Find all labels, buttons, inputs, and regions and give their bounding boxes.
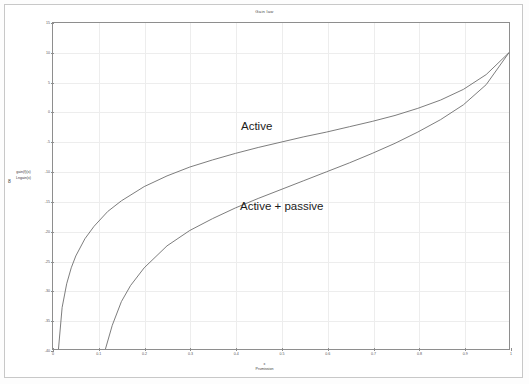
x-axis-tick-label: 0.5	[280, 352, 285, 356]
annotation-active-passive: Active + passive	[240, 200, 323, 212]
x-axis-tick	[419, 348, 420, 351]
y-axis-tick-label: -5	[47, 140, 50, 144]
x-axis-tick	[236, 348, 237, 351]
y-axis-tick	[51, 83, 54, 84]
y-axis-tick-label: -20	[45, 230, 50, 234]
y-axis-tick	[51, 23, 54, 24]
x-axis-title-sub: Prumission	[0, 367, 529, 372]
y-axis-tick	[51, 112, 54, 113]
y-axis-tick-label: -40	[45, 349, 50, 353]
x-axis-tick-label: 0.1	[96, 352, 101, 356]
x-axis-title: x Prumission	[0, 362, 529, 373]
y-axis-tick	[51, 351, 54, 352]
x-axis-tick-label: 0.3	[188, 352, 193, 356]
y-axis-tick	[51, 321, 54, 322]
y-axis-tick	[51, 172, 54, 173]
y-axis-tick-label: -10	[45, 170, 50, 174]
x-axis-tick-label: 0.9	[463, 352, 468, 356]
x-axis-tick	[282, 348, 283, 351]
y-axis-tick-label: 10	[46, 51, 50, 55]
x-axis-tick-label: 0.2	[142, 352, 147, 356]
y-axis-tick	[51, 291, 54, 292]
y-axis-tick-label: 0	[48, 110, 50, 114]
y-axis-tick	[51, 53, 54, 54]
y-axis-tick-label: -25	[45, 260, 50, 264]
chart-screenshot: Gain law 00.10.20.30.40.50.60.70.80.9115…	[0, 0, 529, 384]
x-axis-tick	[328, 348, 329, 351]
y-axis-tick-label: 15	[46, 21, 50, 25]
y-axis-tick	[51, 202, 54, 203]
y-axis-tick-label: -35	[45, 319, 50, 323]
x-axis-tick-label: 0.4	[234, 352, 239, 356]
x-axis-tick-label: 0.8	[417, 352, 422, 356]
y-axis-tick	[51, 262, 54, 263]
y-axis-bracket: 8	[8, 178, 11, 184]
x-axis-tick-label: 1	[510, 352, 512, 356]
y-axis-tick-label: 5	[48, 81, 50, 85]
annotation-active: Active	[241, 120, 272, 132]
x-axis-tick	[511, 348, 512, 351]
y-axis-tick-label: -30	[45, 289, 50, 293]
x-axis-tick	[190, 348, 191, 351]
plot-area: 00.10.20.30.40.50.60.70.80.91151050-5-10…	[52, 22, 510, 350]
x-axis-tick-label: 0	[52, 352, 54, 356]
y-axis-tick-label: -15	[45, 200, 50, 204]
x-axis-tick-label: 0.7	[371, 352, 376, 356]
x-axis-tick	[374, 348, 375, 351]
y-axis-title-line1: gain(f)(x)	[16, 170, 31, 176]
y-axis-title: gain(f)(x) Lngain(x)	[16, 170, 31, 181]
y-axis-title-line2: Lngain(x)	[16, 176, 31, 182]
y-axis-tick	[51, 142, 54, 143]
chart-title: Gain law	[0, 9, 529, 14]
x-axis-tick	[145, 348, 146, 351]
x-axis-tick	[99, 348, 100, 351]
curve-layer	[53, 23, 509, 349]
y-axis-tick	[51, 232, 54, 233]
x-axis-tick-label: 0.6	[325, 352, 330, 356]
x-axis-tick	[465, 348, 466, 351]
